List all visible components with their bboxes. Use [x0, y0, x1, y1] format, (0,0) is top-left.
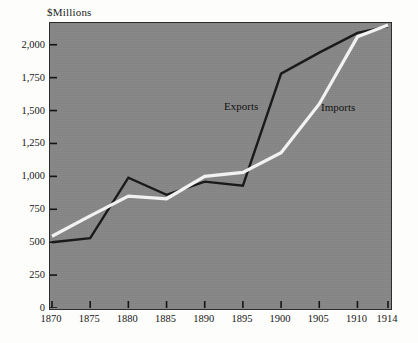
y-tick-label: 500: [1, 236, 45, 247]
x-tick-label: 1895: [231, 313, 252, 324]
y-axis-title: $Millions: [47, 6, 92, 18]
y-tick-label: 250: [1, 269, 45, 280]
series-line-imports: [52, 25, 388, 236]
plot-area: [49, 22, 392, 310]
y-tick-label: 1,500: [1, 104, 45, 115]
y-tick-label: 2,000: [1, 38, 45, 49]
x-tick-label: 1870: [41, 313, 62, 324]
y-tick-label: 750: [1, 203, 45, 214]
y-tick-label: 1,750: [1, 71, 45, 82]
x-tick-label: 1910: [346, 313, 367, 324]
y-axis-tick-labels: 02505007501,0001,2501,5001,7502,000: [0, 0, 45, 343]
y-tick-label: 1,000: [1, 170, 45, 181]
x-tick-label: 1914: [377, 313, 398, 324]
x-tick-label: 1890: [193, 313, 214, 324]
x-tick-label: 1885: [155, 313, 176, 324]
x-tick-label: 1880: [117, 313, 138, 324]
series-label-imports: Imports: [321, 101, 355, 113]
y-tick-label: 1,250: [1, 137, 45, 148]
y-tick-label: 0: [1, 302, 45, 313]
x-tick-label: 1900: [270, 313, 291, 324]
x-tick-label: 1905: [308, 313, 329, 324]
series-label-exports: Exports: [224, 100, 258, 112]
x-tick-label: 1875: [79, 313, 100, 324]
series-canvas: [50, 23, 390, 308]
chart-figure: $Millions 02505007501,0001,2501,5001,750…: [0, 0, 418, 343]
